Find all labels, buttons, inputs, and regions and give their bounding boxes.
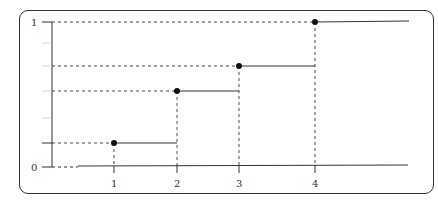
x-label-4: 4 — [312, 178, 318, 189]
x-axis — [78, 165, 408, 166]
x-label-2: 2 — [174, 178, 180, 189]
y-label-1: 1 — [31, 17, 37, 28]
step-points — [111, 19, 318, 146]
x-label-1: 1 — [111, 178, 117, 189]
step-segments — [114, 21, 409, 143]
point-3 — [236, 63, 242, 69]
horizontal-guides — [52, 22, 315, 143]
y-label-0: 0 — [31, 162, 37, 173]
vertical-guides — [114, 22, 315, 166]
point-2 — [174, 88, 180, 94]
step-chart: 1 0 1 2 3 4 — [0, 0, 438, 207]
point-1 — [111, 140, 117, 146]
point-4 — [312, 19, 318, 25]
x-label-3: 3 — [236, 178, 242, 189]
